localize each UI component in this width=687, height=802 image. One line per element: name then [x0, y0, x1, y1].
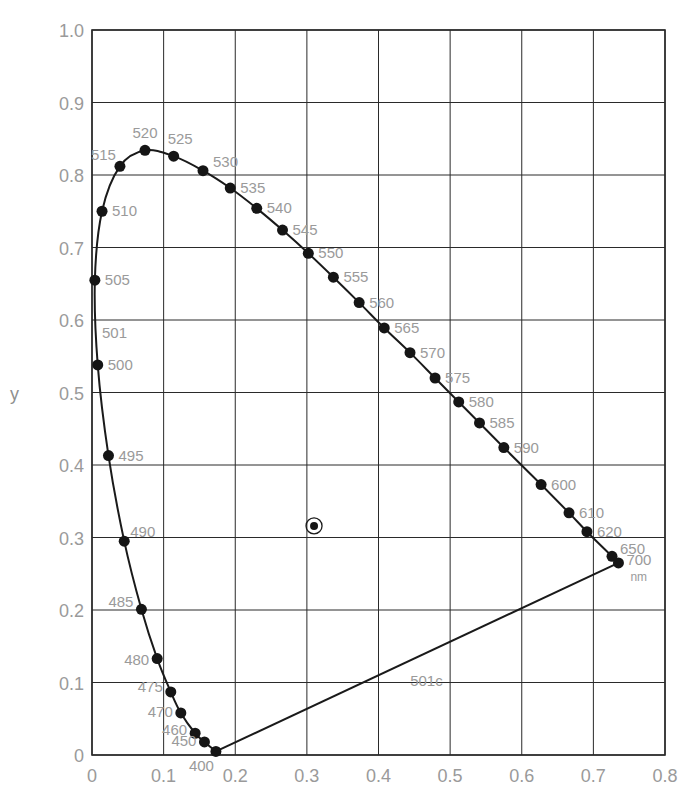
wavelength-label-480: 480: [124, 651, 149, 668]
y-tick-label: 0.1: [59, 674, 84, 694]
wavelength-label-495: 495: [118, 447, 143, 464]
wavelength-point-520: [140, 145, 151, 156]
wavelength-point-450: [199, 736, 210, 747]
unit-label: nm: [630, 570, 647, 584]
x-tick-label: 0.4: [366, 766, 391, 786]
wavelength-label-490: 490: [130, 523, 155, 540]
wavelength-point-700: [613, 557, 624, 568]
annotations: 501501c: [102, 324, 443, 689]
wavelength-point-565: [379, 322, 390, 333]
x-tick-label: 0.2: [223, 766, 248, 786]
annotation-501: 501: [102, 324, 127, 341]
y-tick-label: 0: [74, 746, 84, 766]
wavelength-point-580: [453, 396, 464, 407]
wavelength-label-545: 545: [293, 221, 318, 238]
y-axis-ticks: 00.10.20.30.40.50.60.70.80.91.0: [59, 21, 84, 766]
purple-line: [216, 563, 619, 752]
wavelength-label-515: 515: [91, 146, 116, 163]
wavelength-points: [89, 145, 624, 757]
wavelength-label-560: 560: [369, 294, 394, 311]
wavelength-point-575: [430, 373, 441, 384]
x-tick-label: 0.1: [151, 766, 176, 786]
wavelength-label-565: 565: [394, 319, 419, 336]
wavelength-label-505: 505: [105, 271, 130, 288]
white-point-marker: [306, 518, 322, 534]
x-tick-label: 0.7: [581, 766, 606, 786]
wavelength-label-620: 620: [597, 523, 622, 540]
wavelength-point-570: [405, 347, 416, 358]
x-tick-label: 0.6: [509, 766, 534, 786]
wavelength-point-510: [97, 206, 108, 217]
wavelength-label-520: 520: [132, 124, 157, 141]
wavelength-point-480: [152, 653, 163, 664]
wavelength-point-515: [114, 161, 125, 172]
wavelength-point-585: [474, 417, 485, 428]
y-tick-label: 1.0: [59, 21, 84, 41]
y-axis-label: y: [10, 384, 19, 404]
wavelength-point-505: [89, 275, 100, 286]
y-tick-label: 0.2: [59, 601, 84, 621]
wavelength-point-545: [277, 225, 288, 236]
wavelength-point-525: [168, 151, 179, 162]
wavelength-point-485: [136, 604, 147, 615]
wavelength-point-475: [165, 686, 176, 697]
wavelength-label-535: 535: [240, 179, 265, 196]
wavelength-labels: 4004504604704754804854904955005055105155…: [91, 124, 652, 774]
x-tick-label: 0.8: [652, 766, 677, 786]
wavelength-point-535: [225, 183, 236, 194]
wavelength-point-555: [328, 272, 339, 283]
wavelength-label-585: 585: [489, 414, 514, 431]
wavelength-point-500: [92, 359, 103, 370]
wavelength-label-580: 580: [469, 393, 494, 410]
wavelength-point-590: [498, 442, 509, 453]
x-axis-ticks: 00.10.20.30.40.50.60.70.8: [87, 766, 678, 786]
y-tick-label: 0.9: [59, 94, 84, 114]
wavelength-label-470: 470: [148, 703, 173, 720]
wavelength-point-620: [581, 526, 592, 537]
y-tick-label: 0.3: [59, 529, 84, 549]
cie-chromaticity-chart: 00.10.20.30.40.50.60.70.8 00.10.20.30.40…: [0, 0, 687, 802]
wavelength-point-560: [354, 297, 365, 308]
wavelength-label-700: 700: [626, 551, 651, 568]
wavelength-point-550: [303, 248, 314, 259]
white-point-dot: [310, 522, 318, 530]
x-tick-label: 0: [87, 766, 97, 786]
wavelength-point-530: [198, 165, 209, 176]
wavelength-point-470: [175, 707, 186, 718]
wavelength-point-600: [536, 479, 547, 490]
wavelength-label-575: 575: [445, 369, 470, 386]
y-tick-label: 0.6: [59, 311, 84, 331]
y-tick-label: 0.7: [59, 239, 84, 259]
wavelength-label-510: 510: [112, 202, 137, 219]
wavelength-point-400: [210, 746, 221, 757]
wavelength-label-400: 400: [189, 757, 214, 774]
y-tick-label: 0.4: [59, 456, 84, 476]
spectral-locus-curve: [95, 150, 619, 751]
wavelength-label-610: 610: [579, 504, 604, 521]
wavelength-label-550: 550: [318, 244, 343, 261]
wavelength-point-490: [119, 536, 130, 547]
wavelength-label-540: 540: [267, 199, 292, 216]
wavelength-label-555: 555: [343, 268, 368, 285]
x-tick-label: 0.3: [294, 766, 319, 786]
wavelength-label-570: 570: [420, 344, 445, 361]
wavelength-point-540: [251, 203, 262, 214]
wavelength-label-590: 590: [514, 439, 539, 456]
wavelength-label-475: 475: [138, 678, 163, 695]
wavelength-label-460: 460: [162, 721, 187, 738]
wavelength-label-485: 485: [108, 593, 133, 610]
y-tick-label: 0.8: [59, 166, 84, 186]
wavelength-point-610: [564, 507, 575, 518]
wavelength-point-495: [103, 450, 114, 461]
x-tick-label: 0.5: [438, 766, 463, 786]
wavelength-label-600: 600: [551, 476, 576, 493]
y-tick-label: 0.5: [59, 384, 84, 404]
line-of-purples: [216, 563, 619, 752]
wavelength-label-530: 530: [213, 153, 238, 170]
wavelength-label-525: 525: [168, 130, 193, 147]
wavelength-label-500: 500: [108, 356, 133, 373]
annotation-501c: 501c: [410, 672, 443, 689]
spectral-locus: [95, 150, 619, 751]
